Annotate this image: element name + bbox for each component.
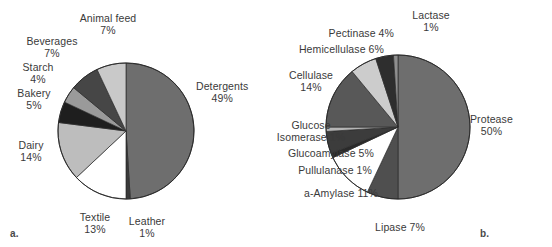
slice-label-hemicellulase: Hemicellulase 6%	[268, 44, 384, 56]
slice-label-animal-feed: Animal feed 7%	[58, 13, 158, 36]
slice-label-protease-pct: 50%	[470, 126, 513, 138]
slice-label-leather: Leather 1%	[115, 216, 179, 239]
slice-label-glucose-isomerase: Glucose Isomerase 1%	[258, 120, 364, 143]
slice-label-protease: Protease 50%	[470, 114, 513, 137]
slice-label-pullulanase: Pullulanase 1%	[258, 165, 372, 177]
figure-page: Animal feed 7% Beverages 7% Starch 4% Ba…	[0, 0, 552, 247]
slice-label-lipase: Lipase 7%	[360, 222, 440, 234]
slice-label-detergents-name: Detergents	[196, 80, 248, 92]
slice-label-dairy-pct: 14%	[0, 152, 62, 164]
slice-label-glucose-isomerase-pct: Isomerase 1%	[258, 132, 364, 144]
slice-label-lactase-name: Lactase	[412, 9, 449, 21]
slice-label-cellulase: Cellulase 14%	[270, 70, 352, 93]
slice-label-detergents: Detergents 49%	[196, 81, 248, 104]
slice-label-cellulase-name: Cellulase	[289, 69, 333, 81]
slice-label-bakery-name: Bakery	[17, 87, 50, 99]
pie-chart-b-industrial-enzyme-types: Lactase 1% Pectinase 4% Hemicellulase 6%…	[276, 0, 552, 247]
panel-tag-b: b.	[480, 228, 489, 239]
pie-slice-protease	[398, 55, 470, 199]
pie-chart-a-industrial-enzyme-markets: Animal feed 7% Beverages 7% Starch 4% Ba…	[0, 0, 276, 247]
slice-label-leather-pct: 1%	[115, 228, 179, 240]
slice-label-starch-pct: 4%	[2, 74, 74, 86]
slice-label-beverages-name: Beverages	[26, 35, 77, 47]
slice-label-glucoamylase: Glucoamylase 5%	[252, 148, 374, 160]
slice-label-cellulase-pct: 14%	[270, 82, 352, 94]
pie-slice-detergents	[126, 63, 194, 199]
slice-label-dairy: Dairy 14%	[0, 140, 62, 163]
slice-label-pectinase: Pectinase 4%	[306, 28, 394, 40]
slice-label-lactase: Lactase 1%	[396, 10, 466, 33]
slice-label-leather-name: Leather	[129, 215, 165, 227]
slice-label-protease-name: Protease	[470, 113, 513, 125]
slice-label-bakery: Bakery 5%	[0, 88, 70, 111]
slice-label-dairy-name: Dairy	[18, 139, 43, 151]
slice-label-animal-feed-name: Animal feed	[80, 12, 137, 24]
slice-label-textile-name: Textile	[80, 211, 110, 223]
slice-label-lactase-pct: 1%	[396, 22, 466, 34]
slice-label-starch: Starch 4%	[2, 62, 74, 85]
slice-label-beverages: Beverages 7%	[8, 36, 96, 59]
slice-label-glucose-isomerase-name: Glucose	[291, 119, 330, 131]
slice-label-bakery-pct: 5%	[0, 100, 70, 112]
slice-label-starch-name: Starch	[23, 61, 54, 73]
panel-tag-a: a.	[10, 228, 19, 239]
slice-label-a-amylase: a-Amylase 11%	[264, 188, 378, 200]
slice-label-detergents-pct: 49%	[196, 93, 248, 105]
slice-label-beverages-pct: 7%	[8, 48, 96, 60]
